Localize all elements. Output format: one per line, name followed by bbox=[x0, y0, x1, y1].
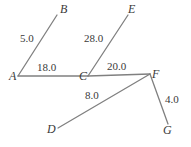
edge-weight-f-g: 4.0 bbox=[165, 94, 179, 105]
graph-edge bbox=[58, 74, 150, 128]
edge-weight-a-c: 18.0 bbox=[37, 62, 56, 73]
node-label-g: G bbox=[163, 124, 172, 136]
node-label-d: D bbox=[47, 123, 56, 135]
node-label-a: A bbox=[9, 70, 16, 82]
node-label-f: F bbox=[152, 68, 159, 80]
graph-edge bbox=[88, 74, 150, 76]
node-label-b: B bbox=[60, 3, 67, 15]
edge-weight-c-f: 20.0 bbox=[107, 61, 126, 72]
edge-weight-d-f: 8.0 bbox=[85, 90, 99, 101]
node-label-e: E bbox=[128, 3, 135, 15]
graph-diagram: ABCEFDG 5.018.028.020.08.04.0 bbox=[0, 0, 191, 147]
node-label-c: C bbox=[79, 70, 87, 82]
edge-weight-a-b: 5.0 bbox=[20, 33, 34, 44]
edge-weight-c-e: 28.0 bbox=[84, 33, 103, 44]
